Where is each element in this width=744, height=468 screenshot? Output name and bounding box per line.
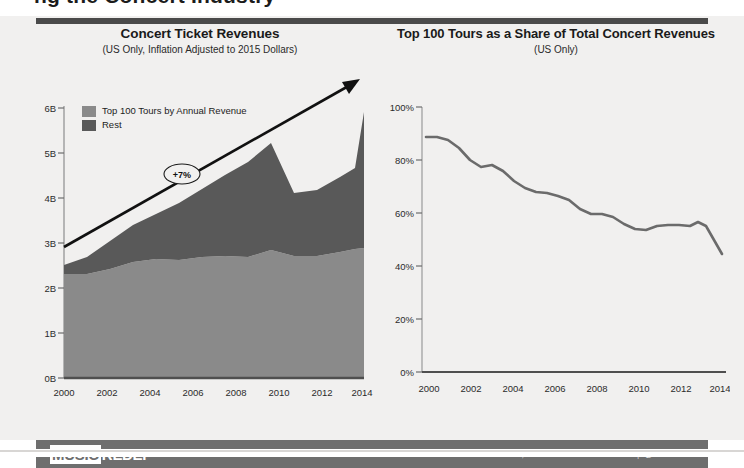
left-xtick-2014: 2014 <box>351 387 372 398</box>
legend-item-top100: Top 100 Tours by Annual Revenue <box>82 104 247 118</box>
left-xtick-2002: 2002 <box>96 387 117 398</box>
right-xtick-2006: 2006 <box>544 383 565 394</box>
right-xtick-2000: 2000 <box>418 383 439 394</box>
right-xtick-2008: 2008 <box>586 383 607 394</box>
left-area-rest <box>64 112 364 274</box>
legend-swatch-rest-icon <box>82 120 96 131</box>
chart-panel-top100-share: Top 100 Tours as a Share of Total Concer… <box>382 26 730 416</box>
figure-canvas: Concert Ticket Revenues (US Only, Inflat… <box>0 16 744 440</box>
right-y-axis-labels: 100% 80% 60% 40% 20% 0% <box>390 102 415 378</box>
legend-label-rest: Rest <box>102 118 122 132</box>
chart-panel-concert-ticket-revenues: Concert Ticket Revenues (US Only, Inflat… <box>22 26 378 416</box>
page-bottom-rule <box>0 450 744 452</box>
left-xtick-2008: 2008 <box>225 387 246 398</box>
left-y-axis-labels: 6B 5B 4B 3B 2B 1B 0B <box>44 103 56 384</box>
right-xtick-2010: 2010 <box>628 383 649 394</box>
left-ytick-3B: 3B <box>44 238 56 249</box>
left-y-axis-ticks <box>58 108 64 378</box>
left-ytick-0B: 0B <box>44 373 56 384</box>
right-xtick-2012: 2012 <box>670 383 691 394</box>
left-xtick-2012: 2012 <box>311 387 332 398</box>
left-xtick-2010: 2010 <box>268 387 289 398</box>
left-xtick-2000: 2000 <box>53 387 74 398</box>
right-xtick-2014: 2014 <box>709 383 730 394</box>
top-rule-divider <box>36 18 708 24</box>
right-chart-svg: 100% 80% 60% 40% 20% 0% <box>382 64 730 412</box>
right-line-series <box>426 137 722 254</box>
right-ytick-60: 60% <box>395 208 415 219</box>
right-chart-title: Top 100 Tours as a Share of Total Concer… <box>382 26 730 42</box>
right-chart-plot: 100% 80% 60% 40% 20% 0% <box>382 64 730 412</box>
left-annotation-label: +7% <box>173 170 191 180</box>
legend-swatch-top100-icon <box>82 106 96 117</box>
clipped-headline-strip: ng the Concert Industry <box>0 0 744 16</box>
right-ytick-100: 100% <box>390 102 415 113</box>
legend-item-rest: Rest <box>82 118 247 132</box>
right-ytick-80: 80% <box>395 155 415 166</box>
right-y-axis-ticks <box>416 107 422 372</box>
left-ytick-2B: 2B <box>44 283 56 294</box>
right-chart-subtitle: (US Only) <box>382 43 730 56</box>
left-chart-subtitle: (US Only, Inflation Adjusted to 2015 Dol… <box>22 43 378 56</box>
left-x-axis-labels: 2000 2002 2004 2006 2008 2010 2012 2014 <box>53 387 372 398</box>
left-annotation-plus7: +7% <box>164 164 200 184</box>
right-x-axis-labels: 2000 2002 2004 2006 2008 2010 2012 2014 <box>418 383 730 394</box>
clipped-headline-text: ng the Concert Industry <box>34 0 275 8</box>
right-xtick-2002: 2002 <box>460 383 481 394</box>
left-ytick-5B: 5B <box>44 148 56 159</box>
right-ytick-20: 20% <box>395 314 415 325</box>
left-ytick-1B: 1B <box>44 328 56 339</box>
left-chart-legend: Top 100 Tours by Annual Revenue Rest <box>82 104 247 132</box>
right-ytick-40: 40% <box>395 261 415 272</box>
right-ytick-0: 0% <box>400 367 414 378</box>
left-chart-title: Concert Ticket Revenues <box>22 26 378 42</box>
left-ytick-4B: 4B <box>44 193 56 204</box>
left-xtick-2004: 2004 <box>139 387 160 398</box>
right-xtick-2004: 2004 <box>502 383 523 394</box>
legend-label-top100: Top 100 Tours by Annual Revenue <box>102 104 247 118</box>
left-xtick-2006: 2006 <box>182 387 203 398</box>
left-ytick-6B: 6B <box>44 103 56 114</box>
